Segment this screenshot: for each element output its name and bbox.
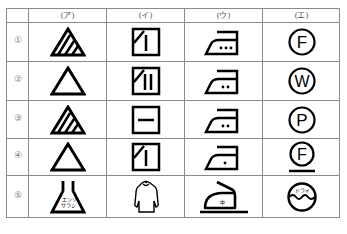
svg-text:サラシ: サラシ: [60, 202, 75, 209]
cell-2-i: [107, 62, 184, 100]
cell-5-a: エンソ サラシ: [29, 176, 106, 218]
cell-1-a: [29, 23, 106, 61]
chlorine-flask-icon: エンソ サラシ: [50, 179, 86, 215]
cell-3-e: P: [263, 101, 340, 138]
row-label-3: ③: [7, 113, 29, 123]
hang-dry-sweater-icon: [131, 179, 161, 215]
cell-1-i: [107, 23, 184, 61]
bleach-triangle-plain-icon: [50, 66, 86, 96]
cell-3-u: [185, 101, 262, 138]
wetclean-circle-W-icon: W: [287, 66, 317, 96]
iron-two-dots-icon: [203, 67, 245, 95]
care-symbols-table: (ア) (イ) (ウ) (エ) ① ② ③ ④ ⑤ F: [6, 8, 340, 218]
cell-5-u: 中: [185, 176, 262, 218]
cell-2-u: [185, 62, 262, 100]
svg-text:F: F: [297, 146, 307, 163]
dry-square-shade-vertical-line-icon: [131, 27, 161, 57]
dryclean-circle-F-icon: F: [287, 27, 317, 57]
iron-one-dot-icon: [203, 143, 245, 171]
column-header-u: (ウ): [185, 9, 262, 23]
cell-4-e: F: [263, 139, 340, 175]
svg-text:中: 中: [219, 199, 224, 206]
cell-4-u: [185, 139, 262, 175]
cell-5-e: ドライ: [263, 176, 340, 218]
dry-square-shade-two-lines-icon: [131, 66, 161, 96]
cell-3-a: [29, 101, 106, 138]
svg-text:W: W: [294, 73, 310, 90]
iron-three-dots-icon: [203, 28, 245, 56]
cell-3-i: [107, 101, 184, 138]
cell-1-u: [185, 23, 262, 61]
column-header-a: (ア): [29, 9, 106, 23]
bleach-triangle-striped-icon: [50, 27, 86, 57]
cell-5-i: [107, 176, 184, 218]
svg-text:ドライ: ドライ: [294, 187, 309, 194]
iron-two-dots-icon: [203, 106, 245, 134]
column-header-e: (エ): [263, 9, 340, 23]
bleach-triangle-striped-icon: [50, 105, 86, 135]
column-header-i: (イ): [107, 9, 184, 23]
row-label-5: ⑤: [7, 190, 29, 200]
cell-2-e: W: [263, 62, 340, 100]
cell-2-a: [29, 62, 106, 100]
dry-square-shade-vertical-line-icon: [131, 142, 161, 172]
dry-tub-icon: ドライ: [286, 181, 318, 213]
row-label-4: ④: [7, 150, 29, 160]
dryclean-circle-P-icon: P: [287, 105, 317, 135]
cell-4-a: [29, 139, 106, 175]
iron-medium-on-pad-icon: 中: [197, 178, 251, 216]
cell-1-e: F: [263, 23, 340, 61]
svg-text:P: P: [296, 111, 307, 130]
cell-4-i: [107, 139, 184, 175]
dry-square-horizontal-line-icon: [131, 105, 161, 135]
svg-text:F: F: [296, 33, 306, 52]
row-label-1: ①: [7, 35, 29, 45]
dryclean-circle-F-underline-icon: F: [287, 140, 317, 174]
row-label-2: ②: [7, 74, 29, 84]
bleach-triangle-plain-icon: [50, 142, 86, 172]
